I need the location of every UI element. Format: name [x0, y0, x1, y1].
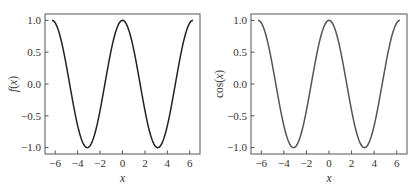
y-tick-label: 1.0: [233, 14, 247, 26]
x-tick-label: 2: [142, 157, 148, 169]
x-tick-label: 6: [394, 157, 400, 169]
y-tick-label: −1.0: [227, 141, 247, 153]
x-axis-label: x: [325, 172, 332, 184]
y-tick-label: 0.5: [233, 46, 247, 58]
x-tick-label: 6: [187, 157, 193, 169]
subplot-1: −6−4−20246−1.0−0.50.00.51.0xf(x): [7, 14, 200, 184]
x-tick-label: −2: [94, 157, 106, 169]
x-tick-label: −4: [72, 157, 84, 169]
x-tick-label: −6: [255, 157, 267, 169]
series-line: [52, 20, 193, 147]
y-tick-label: −0.5: [21, 110, 41, 122]
x-tick-label: 4: [371, 157, 377, 169]
axes-frame: [251, 14, 407, 154]
subplot-2: −6−4−20246−1.0−0.50.00.51.0xcos(x): [213, 14, 407, 184]
y-tick-label: −1.0: [21, 141, 41, 153]
x-tick-label: −2: [301, 157, 313, 169]
y-tick-label: 0.5: [27, 46, 41, 58]
axes-frame: [45, 14, 200, 154]
y-tick-label: −0.5: [227, 110, 247, 122]
y-tick-label: 0.0: [233, 78, 247, 90]
y-tick-label: 0.0: [27, 78, 41, 90]
figure: −6−4−20246−1.0−0.50.00.51.0xf(x)−6−4−202…: [0, 0, 419, 192]
x-axis-label: x: [119, 172, 126, 184]
x-tick-label: 0: [326, 157, 332, 169]
x-tick-label: −4: [278, 157, 290, 169]
y-axis-label: cos(x): [213, 70, 226, 98]
y-axis-label: f(x): [7, 76, 20, 92]
y-tick-label: 1.0: [27, 14, 41, 26]
x-tick-label: 0: [120, 157, 126, 169]
series-line: [258, 20, 400, 147]
x-tick-label: 4: [165, 157, 171, 169]
x-tick-label: −6: [49, 157, 61, 169]
x-tick-label: 2: [349, 157, 355, 169]
chart-canvas: −6−4−20246−1.0−0.50.00.51.0xf(x)−6−4−202…: [0, 0, 419, 192]
